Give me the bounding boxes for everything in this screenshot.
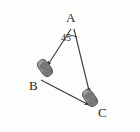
angle-label-a: 45	[61, 33, 71, 43]
vertex-label-b: B	[29, 79, 38, 92]
car-icon	[36, 58, 55, 79]
geometry-figure: A B C 45	[0, 0, 140, 132]
segment-ac	[74, 29, 90, 93]
vertex-label-a: A	[66, 11, 75, 24]
vertex-label-c: C	[98, 106, 107, 119]
car-icon	[81, 88, 100, 109]
segment-bc	[41, 80, 89, 105]
